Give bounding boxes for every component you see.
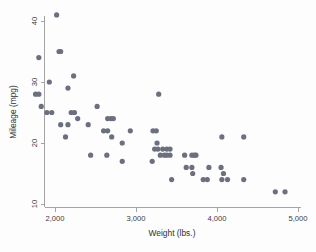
scatter-point [63, 134, 68, 139]
scatter-point [169, 177, 174, 182]
scatter-point [184, 165, 189, 170]
y-axis-ticks: 10203040 [30, 17, 45, 208]
scatter-point [225, 177, 230, 182]
scatter-point [219, 177, 224, 182]
scatter-point [88, 153, 93, 158]
scatter-point [72, 110, 77, 115]
y-tick-label: 30 [30, 78, 39, 86]
scatter-plot-figure: 2,0003,0004,0005,000 10203040 Weight (lb… [0, 0, 316, 252]
y-tick-label: 20 [30, 139, 39, 147]
scatter-point [58, 122, 63, 127]
x-tick-label: 4,000 [207, 214, 226, 223]
scatter-point [71, 73, 76, 78]
scatter-point [111, 116, 116, 121]
scatter-point [167, 153, 172, 158]
scatter-point [47, 79, 52, 84]
scatter-point [154, 140, 159, 145]
scatter-point [128, 128, 133, 133]
scatter-point [49, 110, 54, 115]
data-points [33, 12, 288, 194]
scatter-point [58, 49, 63, 54]
scatter-point [206, 165, 211, 170]
x-tick-label: 3,000 [126, 214, 145, 223]
y-tick-label: 40 [30, 17, 39, 25]
scatter-point [167, 147, 172, 152]
scatter-point [86, 122, 91, 127]
scatter-point [241, 134, 246, 139]
scatter-point [120, 140, 125, 145]
scatter-point [105, 128, 110, 133]
scatter-point [150, 159, 155, 164]
x-tick-label: 2,000 [45, 214, 64, 223]
scatter-point [205, 177, 210, 182]
scatter-point [221, 171, 226, 176]
scatter-point [182, 153, 187, 158]
x-axis-ticks: 2,0003,0004,0005,000 [45, 208, 307, 224]
scatter-point [241, 177, 246, 182]
scatter-point [65, 86, 70, 91]
scatter-point [36, 92, 41, 97]
scatter-point [75, 116, 80, 121]
scatter-point [95, 104, 100, 109]
scatter-point [190, 171, 195, 176]
scatter-point [36, 55, 41, 60]
scatter-point [193, 153, 198, 158]
scatter-point [189, 165, 194, 170]
scatter-point [109, 134, 114, 139]
y-axis-title: Mileage (mpg) [8, 85, 18, 139]
scatter-point [104, 153, 109, 158]
scatter-point [282, 189, 287, 194]
scatter-point [39, 104, 44, 109]
scatter-point [54, 12, 59, 17]
scatter-point [44, 110, 49, 115]
scatter-point [156, 92, 161, 97]
scatter-point [65, 122, 70, 127]
scatter-point [273, 189, 278, 194]
x-tick-label: 5,000 [288, 214, 307, 223]
scatter-point [218, 165, 223, 170]
scatter-point [120, 159, 125, 164]
plot-canvas: 2,0003,0004,0005,000 10203040 Weight (lb… [0, 0, 316, 252]
scatter-point [219, 134, 224, 139]
y-tick-label: 10 [30, 200, 39, 208]
x-axis-title: Weight (lbs.) [149, 228, 196, 238]
scatter-point [152, 147, 157, 152]
scatter-point [154, 128, 159, 133]
